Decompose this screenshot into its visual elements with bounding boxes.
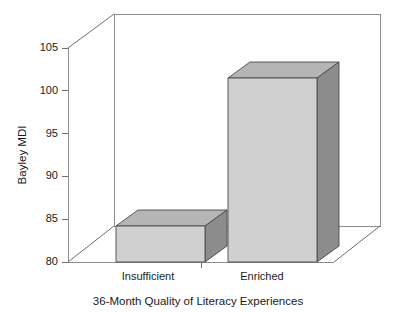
chart-canvas: 105 100 95 90 85 80 Bayley MDI — [0, 0, 396, 312]
y-tick-label-80: 80 — [46, 255, 58, 267]
depth-edge-bottom-left — [68, 226, 114, 262]
y-tick-label-100: 100 — [40, 84, 58, 96]
y-tick-label-105: 105 — [40, 41, 58, 53]
depth-edge-top-left — [68, 14, 114, 48]
y-axis-title: Bayley MDI — [16, 126, 28, 185]
bar-insufficient-front-face — [116, 226, 205, 262]
y-tick-label-95: 95 — [46, 127, 58, 139]
bar-enriched-side-face — [317, 62, 339, 262]
y-tick-label-85: 85 — [46, 212, 58, 224]
y-tick-label-90: 90 — [46, 169, 58, 181]
bar-enriched[interactable] — [228, 62, 339, 262]
x-tick-label-enriched: Enriched — [240, 270, 283, 282]
y-axis-tick-labels: 105 100 95 90 85 80 — [40, 41, 58, 267]
bar-insufficient[interactable] — [116, 210, 227, 262]
bar-chart-figure: 105 100 95 90 85 80 Bayley MDI — [0, 0, 396, 312]
x-tick-label-insufficient: Insufficient — [122, 270, 174, 282]
depth-edge-bottom-right — [334, 226, 380, 262]
bar-enriched-front-face — [228, 78, 317, 262]
y-axis-ticks — [62, 48, 68, 262]
x-axis-title: 36-Month Quality of Literacy Experiences — [93, 295, 304, 307]
